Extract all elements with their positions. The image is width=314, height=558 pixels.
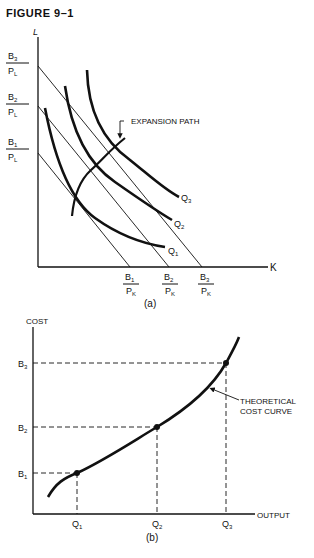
svg-text:PL: PL xyxy=(8,107,18,118)
cost-point-q2 xyxy=(154,424,160,430)
isoquant-label-q1: Q1 xyxy=(168,246,179,257)
y-tick-b3-pl: B3 PL xyxy=(6,51,29,77)
y-axis-label-b: COST xyxy=(26,317,48,326)
isoquant-label-q3: Q3 xyxy=(181,193,192,204)
isocost-line-b1 xyxy=(38,153,130,267)
panel-a: L K B3 PL B2 PL B1 PL B1 PK B2 PK xyxy=(6,27,277,309)
y-axis-label-a: L xyxy=(33,27,38,37)
isoquant-label-q2: Q2 xyxy=(174,219,185,230)
guide-lines xyxy=(33,363,226,514)
x-tick-q1: Q1 xyxy=(72,519,83,530)
isoquant-q3 xyxy=(87,70,179,197)
cost-curve-label-line1: THEORETICAL xyxy=(240,397,297,406)
cost-curve-label-line2: COST CURVE xyxy=(240,407,292,416)
expansion-path-label: EXPANSION PATH xyxy=(131,117,200,126)
svg-text:PL: PL xyxy=(8,66,18,77)
svg-text:B1: B1 xyxy=(8,137,18,148)
svg-text:PK: PK xyxy=(201,286,211,297)
x-tick-q2: Q2 xyxy=(152,519,163,530)
panel-b: COST OUTPUT B3 B2 B1 Q1 Q2 Q3 THEORETICA… xyxy=(18,317,297,543)
x-tick-b2-pk: B2 PK xyxy=(162,272,178,297)
panel-a-caption: (a) xyxy=(144,298,156,309)
x-tick-b1-pk: B1 PK xyxy=(123,272,139,297)
cost-curve-pointer xyxy=(212,389,239,400)
svg-text:B2: B2 xyxy=(8,92,18,103)
svg-text:B3: B3 xyxy=(8,51,18,62)
y-tick-b2-pl: B2 PL xyxy=(6,92,29,118)
y-tick-b1: B1 xyxy=(18,469,28,480)
cost-point-q1 xyxy=(74,470,80,476)
svg-text:B1: B1 xyxy=(125,272,135,283)
svg-text:PK: PK xyxy=(126,286,136,297)
isoquant-q1 xyxy=(45,108,165,247)
x-tick-b3-pk: B3 PK xyxy=(198,272,214,297)
svg-text:B3: B3 xyxy=(200,272,210,283)
x-axis-label-b: OUTPUT xyxy=(257,511,290,520)
svg-text:PL: PL xyxy=(8,152,18,163)
isocost-line-b3 xyxy=(38,66,202,267)
svg-text:B2: B2 xyxy=(164,272,174,283)
isoquant-q2 xyxy=(65,86,172,220)
figure-canvas: L K B3 PL B2 PL B1 PL B1 PK B2 PK xyxy=(0,0,314,558)
y-tick-b2: B2 xyxy=(18,423,28,434)
cost-point-q3 xyxy=(223,360,229,366)
x-tick-q3: Q3 xyxy=(222,519,233,530)
panel-b-caption: (b) xyxy=(146,532,158,543)
svg-text:PK: PK xyxy=(165,286,175,297)
y-tick-b3: B3 xyxy=(18,359,28,370)
expansion-path-pointer xyxy=(120,121,124,136)
x-axis-label-a: K xyxy=(270,262,277,273)
y-tick-b1-pl: B1 PL xyxy=(6,137,29,163)
